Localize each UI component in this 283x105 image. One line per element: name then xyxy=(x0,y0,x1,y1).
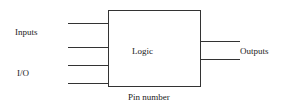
outputs-label: Outputs xyxy=(240,46,269,56)
pin-number-label: Pin number xyxy=(128,92,170,102)
logic-label: Logic xyxy=(132,46,153,56)
logic-block-diagram: Inputs I/O Logic Outputs Pin number xyxy=(0,0,283,105)
io-label: I/O xyxy=(17,68,29,78)
inputs-label: Inputs xyxy=(15,27,38,37)
logic-block xyxy=(109,11,201,87)
